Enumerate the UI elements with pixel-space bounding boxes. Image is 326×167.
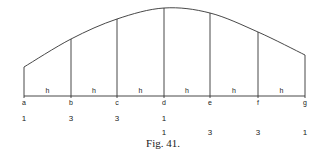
interval-label: h xyxy=(92,87,96,94)
point-label-c: c xyxy=(115,99,119,106)
weight-row2: 1 xyxy=(162,128,167,137)
interval-label: h xyxy=(280,87,284,94)
ordinates xyxy=(24,8,305,98)
interval-label: h xyxy=(185,87,189,94)
point-label-g: g xyxy=(303,99,307,107)
interval-label: h xyxy=(232,87,236,94)
weight-row2: 1 xyxy=(303,128,308,137)
weight-row1: 1 xyxy=(22,114,27,123)
weight-row1: 1 xyxy=(162,114,167,123)
point-label-d: d xyxy=(162,99,166,106)
interval-labels: hhhhhh xyxy=(46,87,284,94)
figure-caption: Fig. 41. xyxy=(146,137,180,149)
weight-row2: 3 xyxy=(256,128,261,137)
point-label-a: a xyxy=(22,99,26,106)
point-label-e: e xyxy=(208,99,212,106)
curve xyxy=(24,8,305,67)
weight-row1: 3 xyxy=(115,114,120,123)
simpsons-rule-figure: abcdefg hhhhhh 1331 1331 Fig. 41. xyxy=(0,0,326,167)
interval-label: h xyxy=(139,87,143,94)
weight-row1: 3 xyxy=(69,114,74,123)
weights-row-2: 1331 xyxy=(162,128,308,137)
point-label-b: b xyxy=(69,99,73,106)
point-label-f: f xyxy=(257,99,259,106)
weights-row-1: 1331 xyxy=(22,114,167,123)
weight-row2: 3 xyxy=(208,128,213,137)
interval-label: h xyxy=(46,87,50,94)
point-labels: abcdefg xyxy=(22,99,307,107)
